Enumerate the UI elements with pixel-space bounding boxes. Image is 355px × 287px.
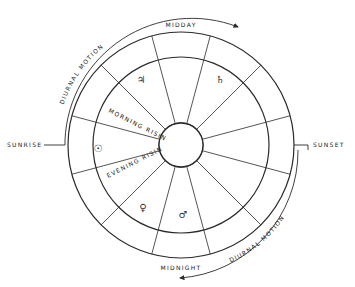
upper-diurnal-motion-label: DIURNAL MOTION [58, 42, 105, 105]
sunset-bracket [294, 145, 308, 150]
mars-icon: ♂ [179, 209, 188, 220]
evening-rising-label: EVENING RISING [0, 0, 164, 179]
jupiter-icon: ♃ [137, 74, 146, 85]
saturn-icon: ♄ [216, 74, 225, 85]
sunrise-bracket [44, 140, 65, 145]
sunrise-label: SUNRISE [7, 141, 42, 148]
midday-label: MIDDAY [165, 21, 196, 28]
sun-icon: ☉ [94, 143, 103, 154]
house-divider [187, 36, 211, 124]
house-divider [197, 161, 261, 225]
venus-icon: ♀ [139, 202, 146, 213]
sunset-label: SUNSET [313, 141, 345, 148]
house-divider [197, 65, 261, 129]
house-divider [152, 36, 176, 124]
midnight-label: MIDNIGHT [160, 264, 201, 271]
house-divider [152, 166, 176, 254]
inner-circle-overlay [159, 123, 203, 167]
house-divider [202, 151, 290, 175]
morning-rising-label: MORNING RISING [0, 0, 168, 142]
diurnal-motion-diagram: DIURNAL MOTION DIURNAL MOTION MIDDAY MID… [0, 0, 355, 287]
house-divider [187, 166, 211, 254]
house-divider [202, 116, 290, 140]
